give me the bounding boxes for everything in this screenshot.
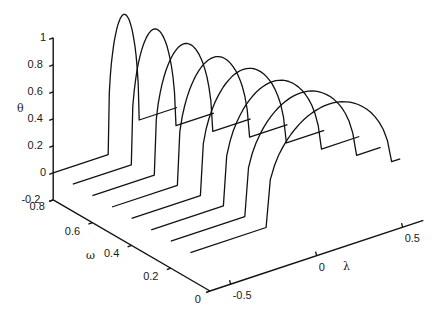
lambda-tick bbox=[230, 280, 231, 284]
omega-tick bbox=[206, 291, 210, 293]
omega-tick bbox=[167, 268, 171, 270]
omega-tick bbox=[88, 223, 92, 225]
lambda-tick bbox=[402, 223, 403, 227]
curve-0.1 bbox=[190, 102, 400, 253]
curve-0.8 bbox=[53, 14, 177, 173]
theta-tick-label: 0.4 bbox=[28, 113, 43, 124]
omega-tick bbox=[128, 245, 132, 247]
omega-tick-label: 0.6 bbox=[65, 226, 80, 237]
omega-tick bbox=[49, 200, 53, 202]
theta-axis-label: θ bbox=[17, 103, 24, 114]
theta-tick-label: 0.2 bbox=[28, 140, 43, 151]
curves bbox=[53, 14, 400, 252]
curve-0.7 bbox=[73, 29, 214, 184]
lambda-tick-label: -0.5 bbox=[233, 290, 252, 301]
lambda-tick bbox=[316, 252, 317, 256]
theta-tick-label: 1 bbox=[40, 32, 46, 43]
theta-tick-label: 0 bbox=[40, 167, 46, 178]
lambda-tick-label: 0.5 bbox=[405, 233, 420, 244]
waterfall-plot bbox=[0, 0, 439, 309]
lambda-axis-label: λ bbox=[343, 261, 350, 272]
theta-tick-label: 0.6 bbox=[28, 86, 43, 97]
theta-tick-label: 0.8 bbox=[28, 59, 43, 70]
curve-0.3 bbox=[151, 80, 359, 230]
omega-tick-label: 0.8 bbox=[30, 201, 45, 212]
omega-tick-label: 0.2 bbox=[143, 271, 158, 282]
lambda-tick-label: 0 bbox=[319, 262, 325, 273]
omega-tick-label: 0.4 bbox=[104, 248, 119, 259]
omega-tick-label: 0 bbox=[195, 294, 201, 305]
omega-axis-label: ω bbox=[86, 250, 95, 261]
